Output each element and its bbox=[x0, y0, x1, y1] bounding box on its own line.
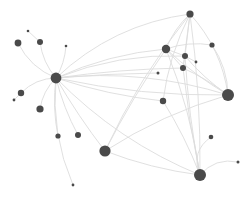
graph-node[interactable] bbox=[162, 45, 170, 53]
graph-node[interactable] bbox=[37, 39, 43, 45]
graph-edge bbox=[212, 45, 228, 95]
graph-node[interactable] bbox=[72, 184, 75, 187]
network-graph-svg bbox=[0, 0, 249, 197]
graph-node[interactable] bbox=[180, 65, 186, 71]
graph-node[interactable] bbox=[160, 98, 166, 104]
edge-layer bbox=[14, 14, 238, 185]
graph-edge bbox=[166, 44, 212, 49]
graph-edge bbox=[55, 78, 73, 185]
graph-edge bbox=[200, 161, 238, 175]
graph-node[interactable] bbox=[182, 53, 188, 59]
network-graph-canvas bbox=[0, 0, 249, 197]
graph-node[interactable] bbox=[186, 10, 193, 17]
graph-edge bbox=[56, 78, 78, 135]
graph-node[interactable] bbox=[13, 99, 16, 102]
graph-node[interactable] bbox=[75, 132, 81, 138]
graph-edge bbox=[56, 78, 105, 151]
graph-node[interactable] bbox=[15, 40, 22, 47]
graph-edge bbox=[163, 101, 200, 175]
graph-node[interactable] bbox=[36, 105, 43, 112]
graph-node[interactable] bbox=[55, 133, 60, 138]
graph-node[interactable] bbox=[51, 73, 62, 84]
graph-node[interactable] bbox=[209, 135, 214, 140]
graph-edge bbox=[56, 56, 185, 78]
graph-edge bbox=[105, 95, 228, 151]
graph-node[interactable] bbox=[99, 145, 110, 156]
graph-node[interactable] bbox=[194, 169, 206, 181]
graph-edge bbox=[40, 42, 56, 78]
graph-node[interactable] bbox=[65, 45, 68, 48]
graph-node[interactable] bbox=[18, 90, 24, 96]
graph-node[interactable] bbox=[237, 161, 240, 164]
node-layer bbox=[13, 10, 240, 186]
graph-edge bbox=[56, 78, 228, 95]
graph-node[interactable] bbox=[209, 42, 214, 47]
graph-node[interactable] bbox=[157, 72, 160, 75]
graph-node[interactable] bbox=[27, 30, 30, 33]
graph-edge bbox=[21, 78, 56, 93]
graph-node[interactable] bbox=[195, 61, 198, 64]
graph-edge bbox=[56, 78, 200, 175]
graph-node[interactable] bbox=[222, 89, 234, 101]
graph-edge bbox=[105, 151, 200, 175]
graph-edge bbox=[18, 43, 56, 78]
